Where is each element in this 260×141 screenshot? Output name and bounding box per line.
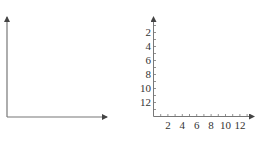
y-label: 4 — [146, 40, 152, 52]
y-label: 6 — [146, 54, 152, 66]
y-label: 8 — [146, 68, 152, 80]
x-label: 12 — [234, 119, 245, 131]
y-label: 2 — [146, 26, 152, 38]
blank-axes — [7, 17, 107, 117]
x-label: 10 — [220, 119, 232, 131]
labeled-axes: 2 4 6 8 10 12 2 4 6 8 10 12 — [140, 17, 254, 131]
x-tick-labels: 2 4 6 8 10 12 — [165, 119, 245, 131]
x-label: 6 — [194, 119, 200, 131]
y-label: 10 — [140, 82, 152, 94]
x-label: 2 — [165, 119, 171, 131]
x-label: 4 — [180, 119, 186, 131]
figure-canvas: 2 4 6 8 10 12 2 4 6 8 10 12 — [0, 0, 260, 141]
y-label: 12 — [140, 96, 151, 108]
y-tick-labels: 2 4 6 8 10 12 — [140, 26, 152, 108]
x-label: 8 — [208, 119, 214, 131]
